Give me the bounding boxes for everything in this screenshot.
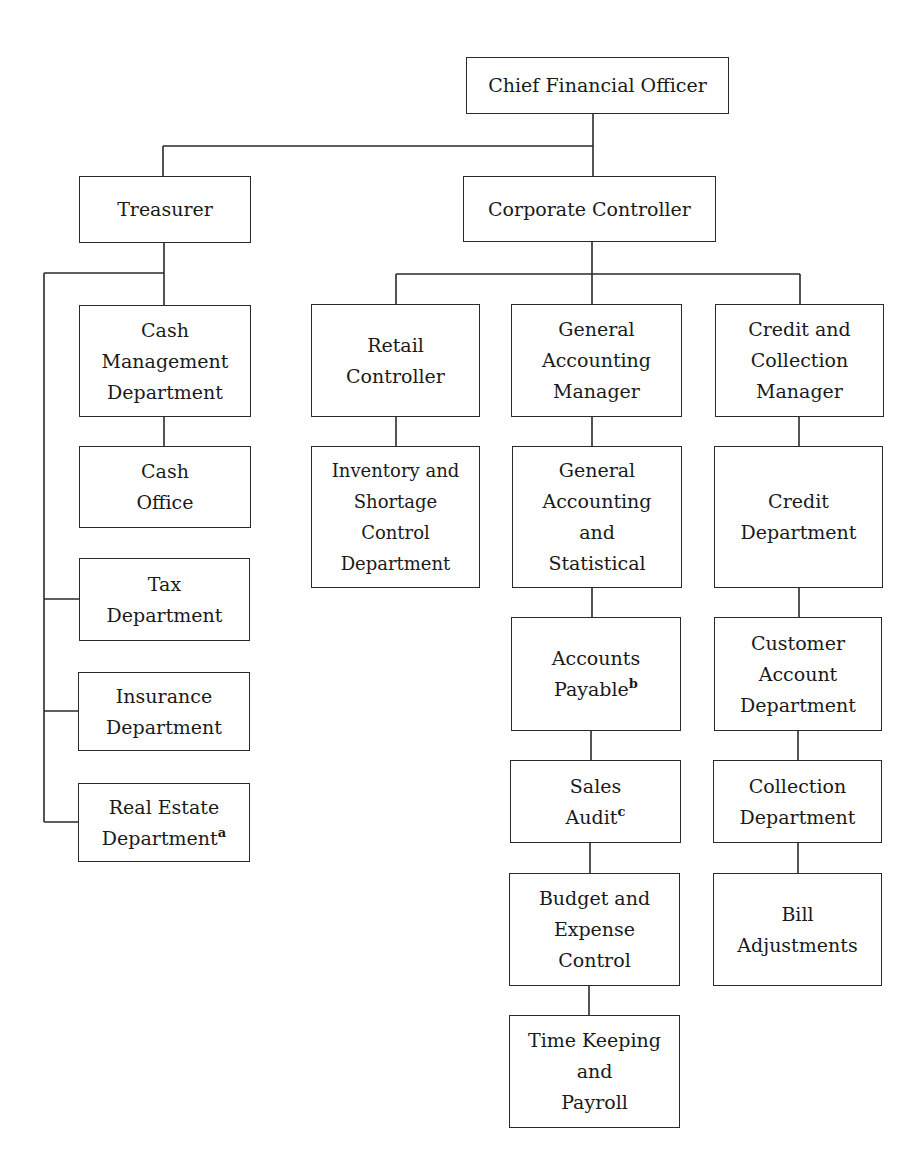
node-budget-expense-control: Budget and Expense Control bbox=[509, 873, 680, 986]
node-label: General Accounting and Statistical bbox=[542, 455, 651, 579]
node-credit-collection-manager: Credit and Collection Manager bbox=[715, 304, 884, 417]
node-cash-office: Cash Office bbox=[79, 446, 251, 528]
node-label: Tax Department bbox=[107, 569, 223, 631]
node-label: Accounts Payableb bbox=[552, 643, 640, 705]
node-chief-financial-officer: Chief Financial Officer bbox=[466, 57, 729, 114]
footnote-marker: c bbox=[617, 804, 625, 819]
node-label-text: Accounts Payable bbox=[552, 647, 640, 700]
node-general-accounting-manager: General Accounting Manager bbox=[511, 304, 682, 417]
node-corporate-controller: Corporate Controller bbox=[463, 176, 716, 242]
node-label: Retail Controller bbox=[346, 330, 445, 392]
node-label: Cash Office bbox=[136, 456, 193, 518]
node-label: Treasurer bbox=[117, 194, 213, 225]
node-general-accounting-statistical: General Accounting and Statistical bbox=[512, 446, 682, 588]
node-time-keeping-payroll: Time Keeping and Payroll bbox=[509, 1015, 680, 1128]
footnote-marker: a bbox=[218, 825, 226, 840]
node-label: Credit and Collection Manager bbox=[748, 314, 851, 407]
node-tax-department: Tax Department bbox=[79, 558, 250, 641]
node-label-text: Real Estate Department bbox=[102, 796, 219, 849]
footnote-marker: b bbox=[629, 676, 638, 691]
node-customer-account-department: Customer Account Department bbox=[714, 617, 882, 731]
node-insurance-department: Insurance Department bbox=[78, 672, 250, 751]
node-real-estate-department: Real Estate Departmenta bbox=[78, 783, 250, 862]
org-chart: Chief Financial Officer Treasurer Corpor… bbox=[0, 0, 920, 1150]
node-bill-adjustments: Bill Adjustments bbox=[713, 873, 882, 986]
node-label: Time Keeping and Payroll bbox=[528, 1025, 661, 1118]
node-label: General Accounting Manager bbox=[542, 314, 651, 407]
node-label: Customer Account Department bbox=[740, 628, 856, 721]
node-credit-department: Credit Department bbox=[714, 446, 883, 588]
node-retail-controller: Retail Controller bbox=[311, 304, 480, 417]
node-label: Sales Auditc bbox=[566, 771, 626, 833]
node-label: Insurance Department bbox=[106, 681, 222, 743]
node-label: Cash Management Department bbox=[102, 315, 229, 408]
node-label: Credit Department bbox=[741, 486, 857, 548]
node-collection-department: Collection Department bbox=[713, 760, 882, 843]
node-label: Budget and Expense Control bbox=[539, 883, 650, 976]
node-cash-management-department: Cash Management Department bbox=[79, 305, 251, 417]
node-label: Inventory and Shortage Control Departmen… bbox=[332, 455, 460, 579]
node-label: Collection Department bbox=[740, 771, 856, 833]
node-label: Real Estate Departmenta bbox=[102, 792, 226, 854]
node-accounts-payable: Accounts Payableb bbox=[511, 617, 681, 731]
node-label: Bill Adjustments bbox=[737, 899, 857, 961]
node-sales-audit: Sales Auditc bbox=[510, 760, 681, 843]
node-label: Corporate Controller bbox=[488, 194, 691, 225]
node-label: Chief Financial Officer bbox=[488, 70, 707, 101]
node-label-text: Sales Audit bbox=[566, 775, 622, 828]
node-inventory-shortage-control: Inventory and Shortage Control Departmen… bbox=[311, 446, 480, 588]
node-treasurer: Treasurer bbox=[79, 176, 251, 243]
